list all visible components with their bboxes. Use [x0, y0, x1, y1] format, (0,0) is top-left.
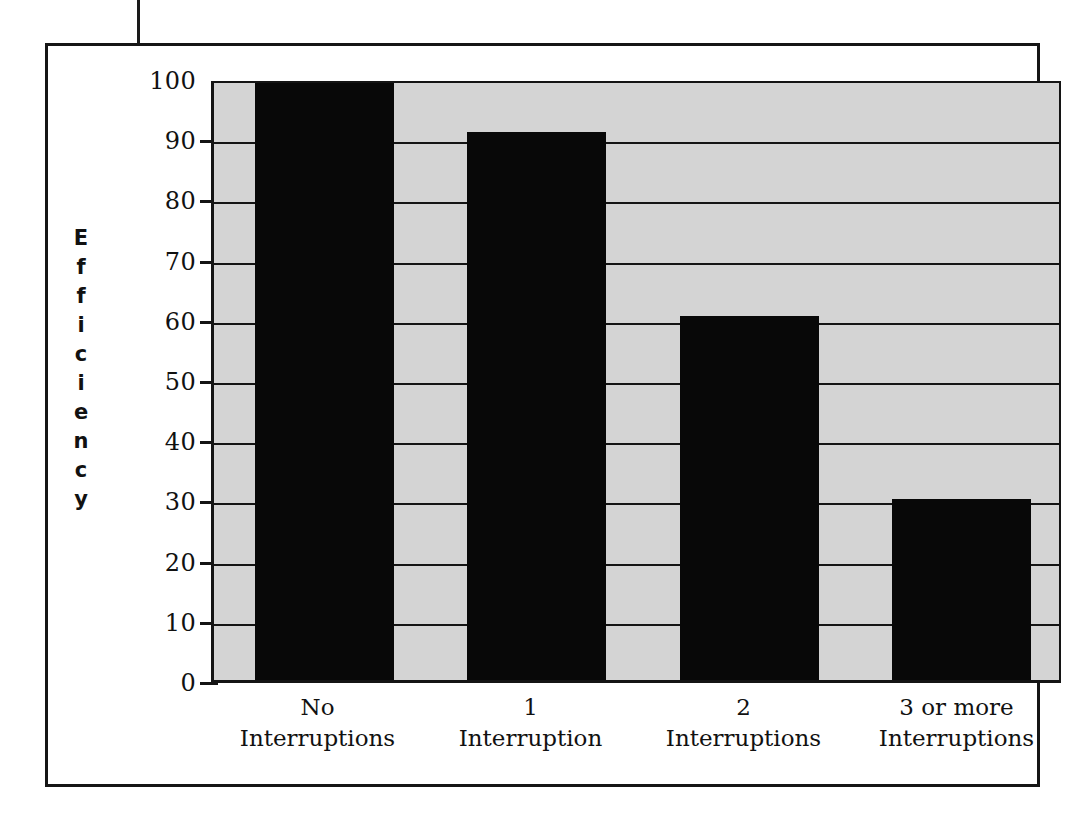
x-axis-tick-label-line1: 2: [637, 692, 850, 723]
x-axis-tick-label-line2: Interruptions: [850, 723, 1063, 754]
page-margin-rule: [137, 0, 140, 47]
x-axis-tick-label-line2: Interruptions: [211, 723, 424, 754]
x-axis-tick-label-line1: No: [211, 692, 424, 723]
bar: [680, 316, 819, 680]
x-axis-tick-labels: No Interruptions 1 Interruption 2 Interr…: [211, 692, 1063, 784]
bar: [255, 81, 394, 680]
x-axis-tick-label-line2: Interruption: [424, 723, 637, 754]
x-axis-tick-label-line1: 1: [424, 692, 637, 723]
bar: [467, 132, 606, 680]
x-axis-tick-label: 3 or more Interruptions: [850, 692, 1063, 784]
x-axis-tick-label: 1 Interruption: [424, 692, 637, 784]
x-axis-tick-label: 2 Interruptions: [637, 692, 850, 784]
bar-chart: E f f i c i e n c y 100 90 80 70 60 50 4…: [48, 46, 1043, 790]
chart-frame: E f f i c i e n c y 100 90 80 70 60 50 4…: [45, 43, 1040, 787]
x-axis-tick-label-line1: 3 or more: [850, 692, 1063, 723]
bar: [892, 499, 1031, 680]
x-axis-tick-label-line2: Interruptions: [637, 723, 850, 754]
plot-area: [211, 81, 1061, 683]
x-axis-tick-label: No Interruptions: [211, 692, 424, 784]
